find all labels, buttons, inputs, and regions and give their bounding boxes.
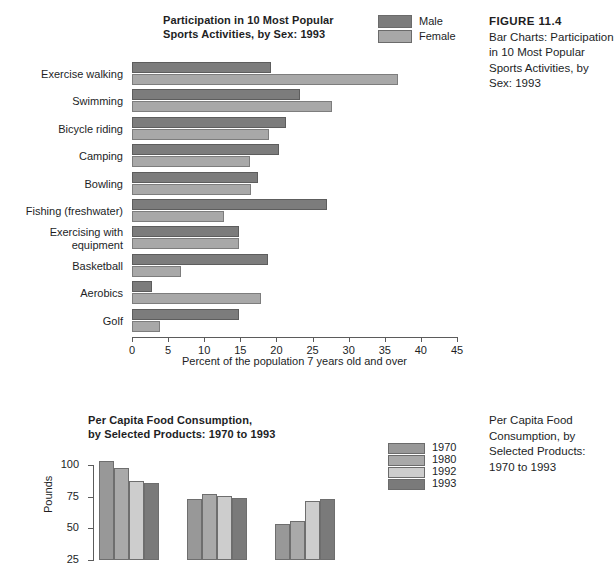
bar-male bbox=[132, 89, 300, 100]
x-axis-tick bbox=[240, 337, 241, 342]
category-label: Swimming bbox=[0, 95, 123, 108]
category-label: Golf bbox=[0, 315, 123, 328]
category-label: Fishing (freshwater) bbox=[0, 205, 123, 218]
legend-swatch-male bbox=[378, 15, 412, 28]
figure-1-x-axis: 051015202530354045 bbox=[132, 337, 457, 338]
bar-female bbox=[132, 74, 398, 85]
bar-male bbox=[132, 62, 271, 73]
bar-male bbox=[132, 226, 239, 237]
bar-group-row: Bowling bbox=[132, 172, 457, 199]
y-axis-tick-label: 25 bbox=[67, 553, 79, 565]
bar-1980 bbox=[114, 468, 129, 560]
bar-group-row: Swimming bbox=[132, 89, 457, 116]
figure-2-y-axis-label: Pounds bbox=[42, 476, 54, 513]
figure-2-side-caption: Per Capita Food Consumption, by Selected… bbox=[489, 413, 614, 475]
bar-male bbox=[132, 117, 286, 128]
legend-swatch-1993 bbox=[388, 479, 425, 490]
bar-male bbox=[132, 281, 152, 292]
category-label: Bicycle riding bbox=[0, 123, 123, 136]
category-label: Exercise walking bbox=[0, 68, 123, 81]
bar-1970 bbox=[275, 524, 290, 560]
figure-1-bar-chart: Participation in 10 Most Popular Sports … bbox=[0, 0, 470, 380]
category-label: Bowling bbox=[0, 178, 123, 191]
bar-male bbox=[132, 172, 258, 183]
x-axis-tick bbox=[132, 337, 133, 342]
legend-swatch-female bbox=[378, 30, 412, 43]
bar-female bbox=[132, 101, 332, 112]
bar-1993 bbox=[320, 499, 335, 560]
bar-female bbox=[132, 238, 239, 249]
bar-group-row: Basketball bbox=[132, 254, 457, 281]
figure-2-plot-area bbox=[93, 465, 328, 560]
bar-group-row: Aerobics bbox=[132, 281, 457, 308]
figure-2-caption-body: Per Capita Food Consumption, by Selected… bbox=[489, 414, 586, 473]
bar-group-row: Exercise walking bbox=[132, 62, 457, 89]
legend-label-1993: 1993 bbox=[432, 477, 456, 490]
bar-male bbox=[132, 254, 268, 265]
figure-1-caption-heading: FIGURE 11.4 bbox=[489, 14, 614, 30]
bar-group-row: Golf bbox=[132, 309, 457, 336]
figure-1-plot-area: Exercise walkingSwimmingBicycle ridingCa… bbox=[132, 62, 457, 337]
figure-1-x-axis-label: Percent of the population 7 years old an… bbox=[132, 355, 457, 367]
legend-swatch-1980 bbox=[388, 455, 425, 466]
category-label: Aerobics bbox=[0, 287, 123, 300]
bar-female bbox=[132, 266, 181, 277]
y-axis-tick-label: 50 bbox=[67, 521, 79, 533]
category-label: Camping bbox=[0, 150, 123, 163]
bar-1992 bbox=[129, 481, 144, 560]
bar-group bbox=[99, 465, 159, 560]
bar-group bbox=[187, 465, 247, 560]
bar-female bbox=[132, 321, 160, 332]
bar-1993 bbox=[144, 483, 159, 560]
x-axis-tick bbox=[349, 337, 350, 342]
bar-1992 bbox=[217, 496, 232, 560]
bar-group-row: Bicycle riding bbox=[132, 117, 457, 144]
x-axis-tick bbox=[385, 337, 386, 342]
bar-male bbox=[132, 144, 279, 155]
bar-1993 bbox=[232, 498, 247, 560]
x-axis-tick bbox=[457, 337, 458, 342]
bar-1980 bbox=[290, 521, 305, 560]
bar-1970 bbox=[187, 499, 202, 560]
bar-group-row: Camping bbox=[132, 144, 457, 171]
bar-male bbox=[132, 199, 327, 210]
bar-group-row: Fishing (freshwater) bbox=[132, 199, 457, 226]
bar-1992 bbox=[305, 501, 320, 560]
bar-female bbox=[132, 211, 224, 222]
x-axis-tick bbox=[168, 337, 169, 342]
x-axis-tick bbox=[313, 337, 314, 342]
bar-group bbox=[275, 465, 335, 560]
x-axis-tick bbox=[204, 337, 205, 342]
bar-1970 bbox=[99, 461, 114, 560]
bar-female bbox=[132, 184, 251, 195]
figure-2-bar-chart: Per Capita Food Consumption, by Selected… bbox=[0, 395, 470, 560]
y-axis-tick-label: 100 bbox=[61, 458, 79, 470]
category-label: Basketball bbox=[0, 260, 123, 273]
legend-label-male: Male bbox=[419, 14, 443, 28]
legend-swatch-1992 bbox=[388, 467, 425, 478]
y-axis-tick-label: 75 bbox=[67, 490, 79, 502]
figure-2-title: Per Capita Food Consumption, by Selected… bbox=[88, 414, 275, 441]
figure-1-side-caption: FIGURE 11.4 Bar Charts: Participation in… bbox=[489, 14, 614, 92]
figure-1-caption-body: Bar Charts: Participation in 10 Most Pop… bbox=[489, 31, 614, 90]
bar-female bbox=[132, 156, 250, 167]
x-axis-tick bbox=[421, 337, 422, 342]
x-axis-tick bbox=[276, 337, 277, 342]
bar-female bbox=[132, 293, 261, 304]
figure-1-title: Participation in 10 Most Popular Sports … bbox=[163, 14, 334, 41]
bar-male bbox=[132, 309, 239, 320]
legend-swatch-1970 bbox=[388, 443, 425, 454]
bar-group-row: Exercising with equipment bbox=[132, 226, 457, 253]
legend-label-female: Female bbox=[419, 29, 456, 43]
bar-female bbox=[132, 129, 269, 140]
bar-1980 bbox=[202, 494, 217, 560]
category-label: Exercising with equipment bbox=[0, 226, 123, 251]
